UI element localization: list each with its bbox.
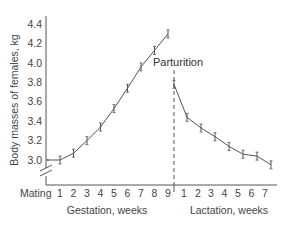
y-tick-label: 4.0 xyxy=(27,57,42,69)
x-tick-label-gestation: 5 xyxy=(111,187,117,199)
x-tick-label-gestation: 7 xyxy=(138,187,144,199)
x-tick-label-lactation: 1 xyxy=(181,187,187,199)
axes: 3.03.23.43.63.84.04.24.41234567891234567 xyxy=(27,16,277,199)
x-axis-title-lactation: Lactation, weeks xyxy=(190,204,268,216)
y-tick-label: 3.4 xyxy=(27,115,42,127)
gestation-line xyxy=(47,34,168,160)
x-tick-label-gestation: 6 xyxy=(125,187,131,199)
x-tick-label-gestation: 9 xyxy=(165,187,171,199)
x-tick-mating: Mating xyxy=(20,187,52,199)
y-tick-label: 3.0 xyxy=(27,154,42,166)
x-tick-label-gestation: 4 xyxy=(98,187,104,199)
x-axis-title-gestation: Gestation, weeks xyxy=(67,204,148,216)
y-tick-label: 3.8 xyxy=(27,76,42,88)
x-tick-label-lactation: 6 xyxy=(249,187,255,199)
x-tick-label-gestation: 2 xyxy=(71,187,77,199)
y-tick-label: 3.6 xyxy=(27,95,42,107)
y-tick-label: 3.2 xyxy=(27,134,42,146)
x-tick-label-lactation: 5 xyxy=(235,187,241,199)
x-tick-label-lactation: 2 xyxy=(195,187,201,199)
y-axis-title: Body masses of females, kg xyxy=(8,34,20,165)
x-tick-label-gestation: 1 xyxy=(57,187,63,199)
y-tick-label: 4.4 xyxy=(27,18,42,30)
x-tick-label-lactation: 7 xyxy=(262,187,268,199)
parturition-annotation: Parturition xyxy=(153,56,203,68)
body-mass-chart: 3.03.23.43.63.84.04.24.41234567891234567… xyxy=(0,0,294,228)
y-tick-label: 4.2 xyxy=(27,37,42,49)
x-tick-label-lactation: 4 xyxy=(222,187,228,199)
axis-break-mark xyxy=(40,170,52,176)
x-tick-label-gestation: 8 xyxy=(152,187,158,199)
lactation-line xyxy=(174,84,271,165)
x-tick-label-lactation: 3 xyxy=(208,187,214,199)
series xyxy=(47,30,273,169)
x-tick-label-gestation: 3 xyxy=(84,187,90,199)
